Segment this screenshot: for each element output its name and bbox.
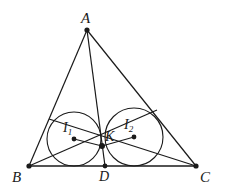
label-d: D bbox=[99, 170, 109, 184]
point-b-dot bbox=[26, 163, 31, 168]
label-b: B bbox=[12, 170, 21, 185]
geometry-canvas bbox=[0, 0, 226, 196]
label-c: C bbox=[200, 170, 210, 185]
label-i1-subscript: 1 bbox=[68, 127, 73, 137]
geometry-figure: A B C D K I1 I2 bbox=[0, 0, 226, 196]
label-a: A bbox=[81, 11, 90, 26]
label-i2-subscript: 2 bbox=[129, 124, 134, 134]
label-k: K bbox=[105, 130, 114, 144]
label-i2: I2 bbox=[124, 118, 133, 132]
label-i1: I1 bbox=[63, 121, 72, 135]
point-d-dot bbox=[103, 164, 108, 169]
label-i1-base: I bbox=[63, 120, 68, 135]
side-ab bbox=[29, 30, 87, 166]
point-c-dot bbox=[193, 163, 198, 168]
point-a-dot bbox=[84, 27, 89, 32]
point-i2-dot bbox=[132, 135, 137, 140]
label-i2-base: I bbox=[124, 117, 129, 132]
point-i1-dot bbox=[72, 137, 77, 142]
